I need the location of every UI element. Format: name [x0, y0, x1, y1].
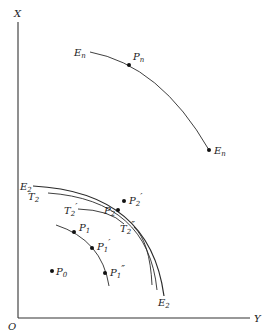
label-p2: P2: [103, 205, 116, 218]
label-p1-dprime: P1″: [109, 263, 125, 280]
svg-text:P1: P1: [78, 222, 90, 235]
curve-en: [90, 52, 209, 150]
label-p0: P0: [55, 266, 68, 279]
label-en-end: En: [213, 145, 226, 158]
svg-text:En: En: [213, 145, 226, 158]
label-p2-prime: P2′: [128, 191, 143, 208]
label-t2-dprime: T2″: [120, 219, 135, 236]
axis-label-y: Y: [254, 313, 262, 324]
label-pn: Pn: [132, 51, 145, 64]
point-p2: [116, 208, 120, 212]
label-e2-end: E2: [157, 297, 170, 310]
svg-text:E2: E2: [157, 297, 170, 310]
svg-text:T2″: T2″: [120, 219, 135, 236]
svg-text:P2: P2: [103, 205, 116, 218]
point-p2-prime: [122, 199, 126, 203]
svg-text:P1′: P1′: [96, 237, 111, 254]
svg-text:P2′: P2′: [128, 191, 143, 208]
point-p1-dprime: [103, 271, 107, 275]
point-pn: [127, 63, 131, 67]
diagram-canvas: X Y O En En Pn E2 E2 T2 T: [0, 0, 274, 336]
origin-label: O: [8, 321, 16, 332]
label-p1: P1: [78, 222, 90, 235]
axis-label-x: X: [13, 8, 22, 19]
svg-text:En: En: [73, 47, 86, 60]
label-t2-prime: T2′: [64, 201, 78, 218]
point-en-end: [207, 148, 211, 152]
point-p1-prime: [90, 246, 94, 250]
point-p1: [72, 230, 76, 234]
label-t2: T2: [28, 191, 40, 204]
diagram-svg: X Y O En En Pn E2 E2 T2 T: [0, 0, 274, 336]
point-p0: [50, 269, 54, 273]
svg-text:Pn: Pn: [132, 51, 145, 64]
label-p1-prime: P1′: [96, 237, 111, 254]
label-en-start: En: [73, 47, 86, 60]
svg-text:T2: T2: [28, 191, 40, 204]
svg-text:T2′: T2′: [64, 201, 78, 218]
svg-text:P1″: P1″: [109, 263, 125, 280]
svg-text:P0: P0: [55, 266, 68, 279]
